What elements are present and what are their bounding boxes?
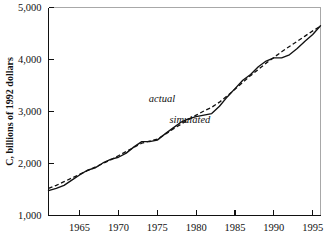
y-tick-label: 3,000 [18, 106, 42, 117]
y-tick-label: 4,000 [18, 54, 42, 65]
y-axis-title-text: C, billions of 1992 dollars [4, 57, 15, 166]
x-tick-label: 1995 [302, 222, 323, 233]
x-tick-label: 1975 [147, 222, 168, 233]
x-tick-label: 1980 [186, 222, 207, 233]
series-label-simulated: simulated [170, 114, 212, 125]
x-tick-label: 1985 [225, 222, 246, 233]
y-axis-title: C, billions of 1992 dollars [4, 57, 15, 166]
series-label-actual: actual [149, 93, 175, 104]
x-tick-label: 1990 [263, 222, 284, 233]
y-tick-label: 2,000 [18, 158, 42, 169]
axis-ticks [49, 8, 313, 216]
x-tick-label: 1965 [69, 222, 90, 233]
x-tick-label: 1970 [108, 222, 129, 233]
series-line-simulated [49, 26, 321, 188]
data-series [49, 26, 321, 191]
y-tick-label: 1,000 [18, 210, 42, 221]
chart-figure: 1,0002,0003,0004,0005,000196519701975198… [0, 0, 330, 237]
series-annotations: actualsimulated [149, 93, 211, 125]
plot-axes [49, 8, 321, 216]
line-chart: 1,0002,0003,0004,0005,000196519701975198… [0, 0, 330, 237]
plot-frame-top-right [49, 8, 321, 216]
series-line-actual [49, 26, 321, 191]
plot-frame [49, 8, 321, 216]
y-tick-label: 5,000 [18, 2, 42, 13]
